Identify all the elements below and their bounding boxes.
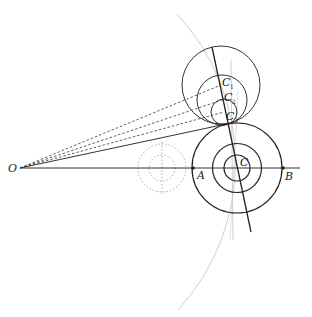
label-C2-sub: 2 xyxy=(232,98,236,105)
label-A: A xyxy=(196,169,205,182)
label-O: O xyxy=(8,162,17,175)
dashed-O-C1 xyxy=(20,85,221,168)
gray-arc xyxy=(177,14,235,310)
label-B: B xyxy=(284,170,293,183)
label-C3-sub: 3 xyxy=(234,117,238,124)
point-A xyxy=(191,166,195,170)
geometry-diagram: O A B C C 1 C 2 C 3 xyxy=(0,0,312,317)
tangent-line xyxy=(20,124,226,168)
label-C1-sub: 1 xyxy=(230,83,234,90)
label-C: C xyxy=(240,156,249,169)
